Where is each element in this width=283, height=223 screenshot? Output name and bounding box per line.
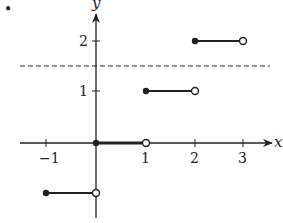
closed-dot — [93, 140, 99, 146]
open-dot — [240, 38, 247, 45]
closed-dot — [143, 88, 149, 94]
x-tick-label-3: 3 — [238, 150, 247, 166]
closed-dot — [43, 190, 49, 196]
step-segment-neg1 — [43, 190, 100, 197]
open-dot — [143, 140, 150, 147]
step-segment-1 — [143, 88, 199, 95]
x-axis-label: x — [274, 133, 283, 151]
x-tick-label-1: 1 — [141, 150, 150, 166]
x-tick-label-2: 2 — [190, 150, 199, 166]
corner-bullet-marker: • — [4, 1, 12, 17]
y-axis-label: y — [91, 0, 101, 12]
step-segment-0 — [93, 140, 150, 147]
x-tick-label-neg1: −1 — [39, 150, 60, 166]
open-dot — [93, 190, 100, 197]
open-dot — [192, 88, 199, 95]
step-segment-2 — [192, 38, 247, 45]
step-function-chart: • x y −1 1 2 3 1 2 — [0, 0, 283, 223]
y-tick-label-2: 2 — [79, 33, 88, 49]
closed-dot — [192, 38, 198, 44]
y-tick-label-1: 1 — [79, 83, 88, 99]
